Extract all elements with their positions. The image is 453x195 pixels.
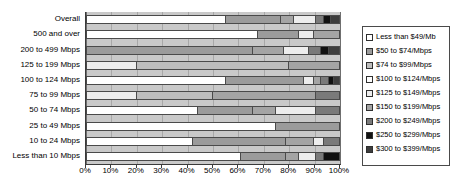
bar-segment — [276, 123, 339, 130]
category-label: 10 to 24 Mbps — [29, 137, 80, 145]
bar-segment — [316, 107, 339, 114]
legend-swatch-icon — [366, 104, 373, 111]
bar-segment — [226, 16, 281, 23]
bar-segment — [304, 77, 314, 84]
bar-segment — [87, 31, 258, 38]
legend-label: $300 to $399/Mbps — [376, 145, 440, 153]
bar-segment — [316, 16, 324, 23]
x-tick-label: 20% — [128, 166, 144, 175]
x-tick-label: 10% — [102, 166, 118, 175]
bar-segment — [87, 107, 198, 114]
legend-label: $150 to $199/Mbps — [376, 103, 440, 111]
x-tick-label: 70% — [255, 166, 271, 175]
legend-swatch-icon — [366, 48, 373, 55]
scan-artifact — [0, 186, 60, 195]
legend-item[interactable]: $125 to $149/Mbps — [366, 86, 447, 100]
bar-segment — [213, 92, 316, 99]
category-label: 125 to 199 Mbps — [20, 61, 80, 69]
bar-segment — [253, 47, 283, 54]
bar-segment — [137, 62, 288, 69]
legend-swatch-icon — [366, 34, 373, 41]
bar-row — [86, 122, 340, 131]
x-tick-label: 50% — [204, 166, 220, 175]
bar-segment — [284, 47, 309, 54]
bar-segment — [329, 47, 339, 54]
legend-swatch-icon — [366, 62, 373, 69]
legend-item[interactable]: $150 to $199/Mbps — [366, 100, 447, 114]
legend-label: $100 to $124/Mbps — [376, 75, 440, 83]
bar-row — [86, 106, 340, 115]
bar-segment — [334, 77, 339, 84]
category-label: 75 to 99 Mbps — [29, 91, 80, 99]
bar-segment — [137, 92, 213, 99]
category-label: Overall — [55, 15, 80, 23]
category-label: Less than 10 Mbps — [12, 152, 80, 160]
legend-item[interactable]: $250 to $299/Mbps — [366, 128, 447, 142]
category-axis: Overall500 and over200 to 499 Mbps125 to… — [0, 12, 82, 164]
bar-segment — [321, 77, 329, 84]
bar-segment — [276, 107, 316, 114]
bar-row — [86, 46, 340, 55]
x-tick-label: 90% — [306, 166, 322, 175]
x-tick-label: 80% — [280, 166, 296, 175]
legend-item[interactable]: Less than $49/Mb — [366, 30, 447, 44]
bar-segment — [289, 62, 339, 69]
bar-segment — [258, 31, 298, 38]
bar-segment — [294, 16, 317, 23]
bar-segment — [87, 138, 193, 145]
plot-area — [85, 12, 340, 164]
bar-segment — [286, 138, 314, 145]
axis-rule — [85, 164, 341, 165]
bar-segment — [253, 107, 276, 114]
bar-row — [86, 91, 340, 100]
bar-segment — [87, 77, 226, 84]
legend-item[interactable]: $50 to $74/Mbps — [366, 44, 447, 58]
bar-segment — [193, 138, 286, 145]
legend-swatch-icon — [366, 76, 373, 83]
bar-segment — [87, 16, 226, 23]
bar-segment — [299, 31, 314, 38]
bar-segment — [281, 16, 294, 23]
bar-segment — [198, 107, 253, 114]
bar-segment — [331, 16, 339, 23]
bar-segment — [316, 153, 324, 160]
bar-segment — [87, 153, 241, 160]
chart-figure: Overall500 and over200 to 499 Mbps125 to… — [0, 0, 453, 195]
bar-segment — [309, 47, 322, 54]
bar-segment — [324, 138, 339, 145]
bar-segment — [321, 47, 329, 54]
x-tick-label: 100% — [329, 166, 349, 175]
bar-segment — [314, 77, 322, 84]
bar-row — [86, 152, 340, 161]
bar-segment — [87, 92, 137, 99]
category-label: 100 to 124 Mbps — [20, 76, 80, 84]
bar-segment — [87, 62, 137, 69]
bar-segment — [324, 16, 332, 23]
legend-item[interactable]: $200 to $249/Mbps — [366, 114, 447, 128]
bar-segment — [299, 153, 317, 160]
bar-segment — [226, 77, 304, 84]
x-tick-label: 60% — [229, 166, 245, 175]
bar-row — [86, 76, 340, 85]
bar-segment — [87, 123, 276, 130]
legend-label: $50 to $74/Mbps — [376, 47, 432, 55]
legend-label: $200 to $249/Mbps — [376, 117, 440, 125]
legend-item[interactable]: $300 to $399/Mbps — [366, 142, 447, 156]
bar-row — [86, 61, 340, 70]
category-label: 25 to 49 Mbps — [29, 122, 80, 130]
bar-segment — [286, 153, 299, 160]
legend-label: $125 to $149/Mbps — [376, 89, 440, 97]
bar-segment — [314, 31, 339, 38]
legend-item[interactable]: $74 to $99/Mbps — [366, 58, 447, 72]
bar-row — [86, 137, 340, 146]
legend-label: $74 to $99/Mbps — [376, 61, 432, 69]
bar-segment — [314, 138, 324, 145]
legend-swatch-icon — [366, 90, 373, 97]
category-label: 200 to 499 Mbps — [20, 46, 80, 54]
bar-row — [86, 15, 340, 24]
bar-segment — [316, 92, 339, 99]
x-axis-labels: 0%10%20%30%40%50%60%70%80%90%100% — [0, 166, 453, 180]
bar-row — [86, 30, 340, 39]
legend: Less than $49/Mb$50 to $74/Mbps$74 to $9… — [362, 26, 450, 166]
legend-item[interactable]: $100 to $124/Mbps — [366, 72, 447, 86]
